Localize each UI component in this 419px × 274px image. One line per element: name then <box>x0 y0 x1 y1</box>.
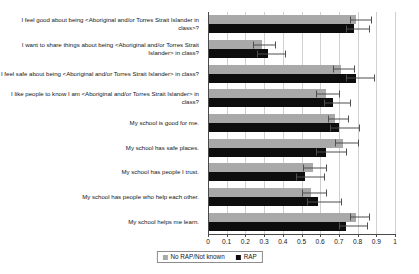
category-label: I like people to know I am <Aboriginal a… <box>0 91 199 106</box>
error-bar-cap <box>275 41 276 48</box>
error-bar <box>350 19 371 20</box>
bar-row <box>208 65 395 74</box>
bar[interactable] <box>208 89 326 98</box>
error-bar-cap <box>350 16 351 23</box>
axis-tick-label: 0.9 <box>372 237 381 246</box>
category-label: I feel safe about being <Aboriginal and/… <box>0 70 199 78</box>
error-bar-cap <box>302 189 303 196</box>
error-bar-cap <box>369 25 370 32</box>
category-label: My school helps me learn. <box>0 218 199 226</box>
axis-tick-label: 0.7 <box>334 237 343 246</box>
bar-group <box>208 213 395 231</box>
bar-row <box>208 114 395 123</box>
error-bar <box>328 118 349 119</box>
error-bar-cap <box>324 173 325 180</box>
bar-row <box>208 40 395 49</box>
error-bar-cap <box>326 189 327 196</box>
legend-swatch-icon <box>162 255 167 260</box>
bar[interactable] <box>208 163 313 172</box>
value-axis: 00.10.20.30.40.50.60.70.80.91 <box>208 234 395 248</box>
legend-item[interactable]: RAP <box>236 253 257 261</box>
bar-row <box>208 24 395 33</box>
plot-area <box>208 12 395 234</box>
bar[interactable] <box>208 65 341 74</box>
bar-row <box>208 222 395 231</box>
error-bar <box>302 192 326 193</box>
error-bar-cap <box>348 115 349 122</box>
bar[interactable] <box>208 74 356 83</box>
bar[interactable] <box>208 15 356 24</box>
error-bar <box>333 69 354 70</box>
axis-tick-label: 0.8 <box>353 237 362 246</box>
axis-tick-label: 0.1 <box>222 237 231 246</box>
bar[interactable] <box>208 24 354 33</box>
axis-tick-label: 1 <box>393 237 397 246</box>
bar-group <box>208 15 395 33</box>
bar-row <box>208 123 395 132</box>
bar[interactable] <box>208 188 311 197</box>
bar[interactable] <box>208 123 339 132</box>
error-bar-cap <box>346 149 347 156</box>
error-bar-cap <box>339 90 340 97</box>
error-bar <box>253 44 275 45</box>
error-bar-cap <box>296 173 297 180</box>
error-bar-cap <box>371 16 372 23</box>
gridline <box>395 12 396 234</box>
bar[interactable] <box>208 172 305 181</box>
error-bar-cap <box>346 75 347 82</box>
bar[interactable] <box>208 222 346 231</box>
axis-tick-label: 0.4 <box>278 237 287 246</box>
bar[interactable] <box>208 139 343 148</box>
bar-group <box>208 65 395 83</box>
error-bar-cap <box>257 50 258 57</box>
bar-row <box>208 163 395 172</box>
bar-row <box>208 15 395 24</box>
error-bar-cap <box>324 99 325 106</box>
legend-label: No RAP/Not known <box>170 253 224 261</box>
error-bar-cap <box>367 223 368 230</box>
error-bar <box>346 78 374 79</box>
axis-tick-label: 0 <box>206 237 210 246</box>
bar-row <box>208 148 395 157</box>
bar-row <box>208 213 395 222</box>
error-bar-cap <box>350 99 351 106</box>
bar[interactable] <box>208 197 318 206</box>
bar-row <box>208 188 395 197</box>
error-bar-cap <box>358 140 359 147</box>
bar-group <box>208 163 395 181</box>
category-axis-line <box>208 234 395 235</box>
bar-row <box>208 139 395 148</box>
bar-group <box>208 139 395 157</box>
category-label: My school is good for me. <box>0 119 199 127</box>
error-bar-cap <box>369 214 370 221</box>
bar-group <box>208 89 395 107</box>
axis-tick-label: 0.2 <box>241 237 250 246</box>
bar[interactable] <box>208 213 356 222</box>
error-bar-cap <box>335 140 336 147</box>
legend-label: RAP <box>244 253 257 261</box>
bar-row <box>208 49 395 58</box>
category-label: My school has people I trust. <box>0 169 199 177</box>
bar-row <box>208 197 395 206</box>
bar-row <box>208 172 395 181</box>
bar[interactable] <box>208 148 326 157</box>
category-label: I feel good about being <Aboriginal and/… <box>0 17 199 32</box>
category-label: My school has safe places. <box>0 144 199 152</box>
bar-group <box>208 188 395 206</box>
bar[interactable] <box>208 114 335 123</box>
bar[interactable] <box>208 98 333 107</box>
error-bar <box>346 28 368 29</box>
category-label: My school has people who help each other… <box>0 193 199 201</box>
bar-row <box>208 89 395 98</box>
axis-tick-label: 0.5 <box>297 237 306 246</box>
bar-group <box>208 114 395 132</box>
error-bar <box>350 217 369 218</box>
axis-tick-label: 0.6 <box>316 237 325 246</box>
error-bar-cap <box>316 149 317 156</box>
error-bar-cap <box>316 90 317 97</box>
category-axis: I feel good about being <Aboriginal and/… <box>0 12 203 234</box>
error-bar-cap <box>285 50 286 57</box>
legend-item[interactable]: No RAP/Not known <box>162 253 224 261</box>
error-bar <box>330 127 360 128</box>
error-bar-cap <box>350 214 351 221</box>
